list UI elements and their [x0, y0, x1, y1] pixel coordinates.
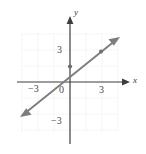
y-tick-label-neg3: −3 [51, 116, 62, 126]
y-tick-label-pos3: 3 [57, 45, 62, 55]
x-tick-label-pos3: 3 [99, 85, 104, 95]
graph-figure: y x −3 3 3 −3 0 [0, 0, 146, 154]
coordinate-plane-svg [0, 0, 146, 154]
point-y-intercept [68, 64, 72, 68]
x-axis-label: x [133, 76, 137, 85]
x-axis-arrow [122, 79, 130, 86]
point-upper [99, 50, 103, 54]
y-axis-arrow [67, 16, 74, 24]
axis-arrowheads [67, 16, 130, 85]
y-axis-label: y [74, 8, 78, 17]
x-tick-label-neg3: −3 [28, 84, 39, 94]
origin-label: 0 [59, 85, 64, 95]
